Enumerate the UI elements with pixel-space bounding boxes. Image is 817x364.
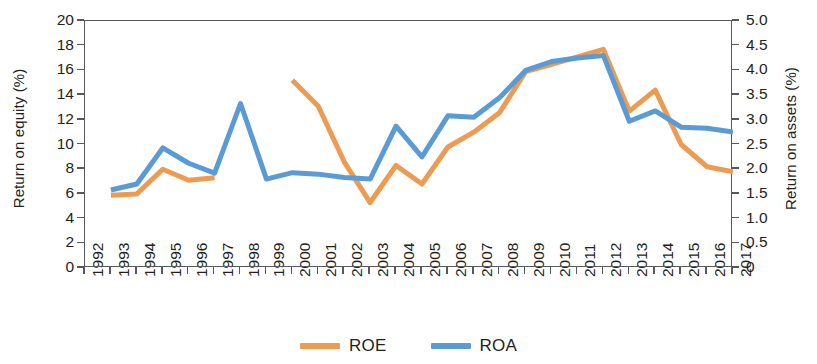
y-axis-left-title: Return on equity (%) — [10, 49, 27, 229]
x-axis-tick-mark — [83, 267, 85, 274]
y-axis-right-tick-mark — [732, 192, 739, 194]
y-axis-right-tick-mark — [732, 69, 739, 71]
y-axis-right-tick-mark — [732, 217, 739, 219]
x-axis-tick-mark — [291, 267, 293, 274]
x-axis-tick-mark — [213, 267, 215, 274]
series-line-roa — [111, 56, 733, 190]
x-axis-tick-mark — [576, 267, 578, 274]
y-axis-left-tick-mark — [77, 118, 84, 120]
x-axis-tick-mark — [498, 267, 500, 274]
x-axis-tick-mark — [524, 267, 526, 274]
y-axis-right-tick-label: 3.0 — [746, 111, 792, 127]
legend-label: ROE — [349, 336, 386, 356]
x-axis-tick-mark — [446, 267, 448, 274]
x-axis-tick-mark — [368, 267, 370, 274]
y-axis-right-tick-mark — [732, 44, 739, 46]
x-axis-tick-mark — [653, 267, 655, 274]
legend-swatch-roe — [300, 343, 340, 349]
y-axis-right-tick-label: 2.5 — [746, 136, 792, 152]
y-axis-right-tick-mark — [732, 93, 739, 95]
x-axis-tick-mark — [705, 267, 707, 274]
x-axis-tick-mark — [265, 267, 267, 274]
legend-swatch-roa — [431, 343, 471, 349]
plot-area — [84, 20, 732, 267]
x-axis-tick-mark — [602, 267, 604, 274]
y-axis-right-tick-label: 4.0 — [746, 61, 792, 77]
y-axis-left-tick-mark — [77, 19, 84, 21]
legend-item-roa[interactable]: ROA — [431, 336, 517, 356]
y-axis-right-tick-mark — [732, 167, 739, 169]
y-axis-left-tick-label: 4 — [34, 210, 74, 226]
y-axis-right-tick-mark — [732, 143, 739, 145]
x-axis-tick-mark — [420, 267, 422, 274]
x-axis-tick-mark — [628, 267, 630, 274]
legend-item-roe[interactable]: ROE — [300, 336, 386, 356]
y-axis-left-tick-mark — [77, 167, 84, 169]
x-axis-tick-mark — [187, 267, 189, 274]
y-axis-left-tick-label: 8 — [34, 160, 74, 176]
y-axis-right-tick-label: 5.0 — [746, 12, 792, 28]
y-axis-right-tick-label: 1.5 — [746, 185, 792, 201]
legend-label: ROA — [480, 336, 517, 356]
y-axis-right-tick-label: 4.5 — [746, 37, 792, 53]
x-axis-tick-mark — [731, 267, 733, 274]
chart-legend: ROEROA — [0, 336, 817, 356]
y-axis-right-tick-label: 1.0 — [746, 210, 792, 226]
y-axis-right-tick-label: 2.0 — [746, 160, 792, 176]
y-axis-left-tick-mark — [77, 44, 84, 46]
series-lines — [85, 21, 733, 268]
series-line-roe — [111, 169, 215, 195]
y-axis-right-tick-mark — [732, 118, 739, 120]
y-axis-left-tick-mark — [77, 69, 84, 71]
y-axis-left-tick-label: 10 — [34, 136, 74, 152]
x-axis-tick-label: 2017 — [738, 243, 754, 277]
y-axis-left-tick-label: 16 — [34, 61, 74, 77]
y-axis-left-tick-mark — [77, 192, 84, 194]
x-axis-tick-mark — [550, 267, 552, 274]
y-axis-right-tick-mark — [732, 19, 739, 21]
x-axis-tick-mark — [679, 267, 681, 274]
x-axis-tick-mark — [472, 267, 474, 274]
x-axis-tick-mark — [317, 267, 319, 274]
y-axis-left-tick-mark — [77, 217, 84, 219]
y-axis-left-tick-label: 0 — [34, 259, 74, 275]
y-axis-left-tick-mark — [77, 143, 84, 145]
x-axis-tick-mark — [342, 267, 344, 274]
x-axis-tick-mark — [161, 267, 163, 274]
x-axis-tick-mark — [239, 267, 241, 274]
chart-container: Return on equity (%) Return on assets (%… — [0, 0, 817, 364]
x-axis-tick-mark — [109, 267, 111, 274]
y-axis-left-tick-label: 20 — [34, 12, 74, 28]
x-axis-tick-mark — [394, 267, 396, 274]
x-axis-tick-mark — [135, 267, 137, 274]
y-axis-left-tick-mark — [77, 93, 84, 95]
y-axis-left-tick-mark — [77, 242, 84, 244]
y-axis-left-tick-label: 2 — [34, 234, 74, 250]
y-axis-left-tick-label: 18 — [34, 37, 74, 53]
y-axis-left-tick-label: 12 — [34, 111, 74, 127]
y-axis-left-tick-label: 6 — [34, 185, 74, 201]
y-axis-left-tick-label: 14 — [34, 86, 74, 102]
y-axis-right-tick-label: 3.5 — [746, 86, 792, 102]
